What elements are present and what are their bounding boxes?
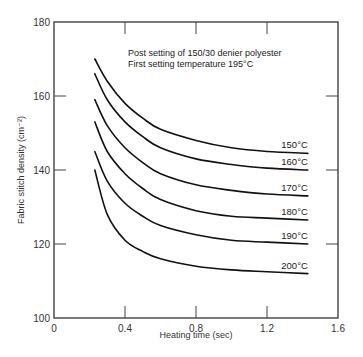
y-tick-label: 180	[33, 17, 50, 28]
series-line-160c	[95, 74, 308, 170]
series-labels: 150°C160°C170°C180°C190°C200°C	[281, 139, 308, 270]
chart: 00.40.81.21.6100120140160180 150°C160°C1…	[0, 0, 363, 357]
series-line-150c	[95, 59, 308, 153]
x-tick-label: 0	[51, 323, 57, 334]
y-tick-label: 140	[33, 165, 50, 176]
y-tick-label: 100	[33, 313, 50, 324]
x-tick-label: 0.4	[118, 323, 132, 334]
y-tick-label: 160	[33, 91, 50, 102]
series-label-190c: 190°C	[281, 230, 308, 241]
series-line-170c	[95, 100, 308, 196]
y-axis-title: Fabric stitch density (cm⁻²)	[16, 116, 26, 224]
annotation-line-2: First setting temperature 195°C	[128, 59, 254, 69]
series-label-160c: 160°C	[281, 156, 308, 167]
series-label-180c: 180°C	[281, 206, 308, 217]
series-line-190c	[95, 152, 308, 245]
series-label-150c: 150°C	[281, 139, 308, 150]
curves	[95, 59, 308, 274]
annotation-line-1: Post setting of 150/30 denier polyester	[128, 48, 282, 58]
x-tick-label: 1.2	[260, 323, 274, 334]
y-tick-label: 120	[33, 239, 50, 250]
series-label-170c: 170°C	[281, 182, 308, 193]
x-tick-label: 1.6	[331, 323, 345, 334]
x-axis-title: Heating time (sec)	[159, 330, 232, 340]
series-label-200c: 200°C	[281, 260, 308, 271]
